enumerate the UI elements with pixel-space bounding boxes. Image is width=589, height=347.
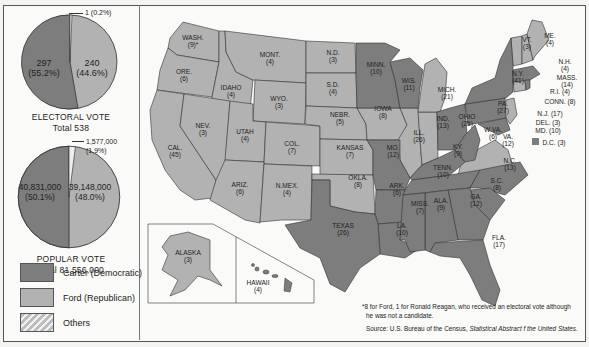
svg-text:MICH.(21): MICH.(21) [438, 86, 457, 101]
svg-text:VT.(3): VT.(3) [522, 36, 532, 51]
svg-text:MD. (10): MD. (10) [535, 127, 561, 135]
svg-text:PA.(27): PA.(27) [497, 100, 509, 115]
svg-text:DEL. (3): DEL. (3) [536, 119, 561, 127]
svg-text:ME.(4): ME.(4) [544, 32, 556, 47]
svg-text:FLA.(17): FLA.(17) [492, 234, 506, 249]
state-ny [465, 38, 513, 104]
footnote: *8 for Ford, 1 for Ronald Reagan, who re… [362, 302, 584, 320]
state-mich [418, 58, 447, 112]
source-citation: Source: U.S. Bureau of the Census, Stati… [366, 324, 588, 333]
svg-text:N.H.(4): N.H.(4) [558, 58, 571, 73]
us-electoral-map: WASH.(9)* ORE.(6) CAL.(45) IDAHO(4) NEV.… [0, 0, 589, 347]
svg-text:N.J. (17): N.J. (17) [537, 110, 562, 118]
state-fla [430, 240, 500, 306]
svg-text:IND.(13): IND.(13) [436, 115, 449, 130]
svg-text:CAL.(45): CAL.(45) [168, 144, 183, 159]
svg-text:N.Y.(41): N.Y.(41) [512, 70, 524, 85]
dc-swatch [532, 138, 539, 145]
svg-text:N.C.(13): N.C.(13) [503, 157, 516, 172]
state-ri [525, 80, 530, 90]
svg-text:WIS.(11): WIS.(11) [402, 77, 416, 92]
svg-text:KY.(9): KY.(9) [453, 143, 463, 158]
svg-text:GA.(12): GA.(12) [470, 193, 482, 208]
svg-text:MASS.(14): MASS.(14) [557, 74, 578, 89]
svg-text:R.I. (4): R.I. (4) [550, 88, 570, 96]
state-minn [356, 43, 400, 108]
svg-text:CONN. (8): CONN. (8) [544, 98, 575, 106]
svg-text:MO.(12): MO.(12) [387, 144, 400, 159]
svg-text:ILL.(26): ILL.(26) [413, 129, 425, 144]
svg-text:LA.(10): LA.(10) [396, 222, 408, 237]
svg-text:D.C. (3): D.C. (3) [542, 139, 565, 147]
svg-text:VA.(12): VA.(12) [502, 133, 514, 148]
